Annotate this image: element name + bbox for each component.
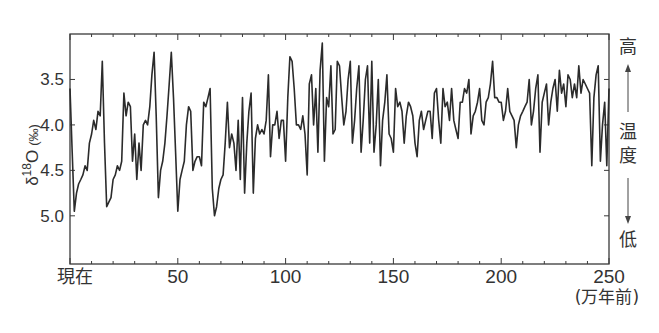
- x-axis-tick-labels: 現在50100150200250: [57, 266, 625, 287]
- temperature-label-char2: 度: [619, 145, 637, 166]
- x-tick-label: 現在: [57, 266, 93, 287]
- x-axis-unit-label: (万年前): [575, 287, 639, 307]
- svg-text:δ18O(‰): δ18O(‰): [20, 124, 42, 186]
- temperature-low-label: 低: [619, 229, 637, 250]
- y-axis-tick-labels: 3.54.04.55.0: [40, 70, 64, 225]
- temperature-high-label: 高: [619, 36, 637, 57]
- temperature-annotation: 高 温 度 低: [619, 36, 637, 250]
- x-tick-label: 200: [485, 266, 517, 287]
- y-tick-label: 5.0: [40, 207, 64, 226]
- y-axis-title: δ18O(‰): [20, 124, 42, 186]
- x-tick-label: 150: [378, 266, 410, 287]
- y-axis-title-delta: δ: [23, 176, 42, 185]
- x-tick-label: 250: [593, 266, 625, 287]
- chart: 現在50100150200250 3.54.04.55.0 δ18O(‰) (万…: [0, 0, 659, 333]
- down-arrow-head-icon: [625, 216, 631, 224]
- delta18o-series-line: [70, 43, 609, 216]
- x-tick-label: 50: [167, 266, 188, 287]
- y-axis-title-unit: (‰): [26, 124, 41, 146]
- y-tick-label: 4.0: [40, 116, 64, 135]
- y-tick-label: 3.5: [40, 70, 64, 89]
- temperature-label-char1: 温: [619, 121, 637, 142]
- x-tick-label: 100: [270, 266, 302, 287]
- y-axis-title-superscript: 18: [20, 163, 34, 177]
- up-arrow-head-icon: [625, 64, 631, 72]
- y-axis-title-o: O: [23, 150, 42, 163]
- y-tick-label: 4.5: [40, 161, 64, 180]
